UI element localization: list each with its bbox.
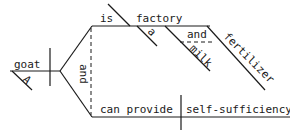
compound-word-milk: milk — [187, 42, 215, 70]
compound-word-fertilizer: fertilizer — [221, 30, 277, 86]
predicate-noun: factory — [136, 12, 183, 25]
compound-conjunction-and: and — [187, 28, 207, 41]
predicate-2-verb: can provide — [100, 103, 173, 116]
sentence-diagram: goat A and is factory a milk fertilizer … — [0, 0, 290, 131]
predicate-1-verb: is — [100, 12, 113, 25]
subject-word: goat — [14, 58, 41, 71]
conjunction-and: and — [77, 64, 90, 84]
direct-object: self-sufficiency — [186, 103, 290, 116]
